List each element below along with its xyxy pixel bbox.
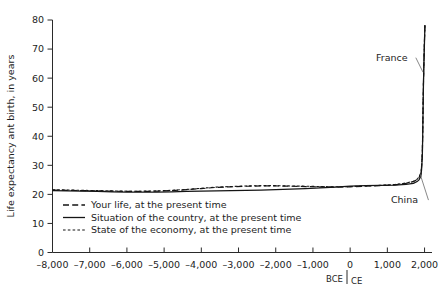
x-tick-label: –5,000 [148,259,180,270]
chart-legend: Your life, at the present timeSituation … [63,199,302,235]
y-axis-title: Life expectancy ant birth, in years [5,55,16,218]
y-tick-label: 80 [32,14,44,25]
x-tick-label: –8,000 [37,259,69,270]
annotation-leader-line [420,174,428,200]
line-chart: 01020304050607080 –8,000–7,000–6,000–5,0… [0,0,446,300]
annotation-layer: FranceChina [376,52,428,205]
y-tick-label: 70 [32,43,44,54]
x-tick-label: 0 [347,259,353,270]
legend-label-1: Situation of the country, at the present… [91,212,302,223]
x-tick-label: –7,000 [74,259,106,270]
y-tick-label: 10 [32,218,44,229]
series-line [53,24,425,191]
x-tick-label: –6,000 [111,259,143,270]
era-label-bce: BCE [326,274,343,284]
chart-figure: 01020304050607080 –8,000–7,000–6,000–5,0… [0,0,446,300]
legend-label-2: State of the economy, at the present tim… [91,224,292,235]
series-line [53,26,425,192]
x-tick-label: –1,000 [297,259,329,270]
y-tick-label: 60 [32,73,44,84]
y-tick-label: 20 [32,189,44,200]
x-tick-label: –2,000 [260,259,292,270]
x-tick-label: –3,000 [223,259,255,270]
y-axis-ticks: 01020304050607080 [32,14,53,258]
data-series-layer [53,23,425,192]
x-tick-label: 2,000 [411,259,438,270]
x-tick-label: –4,000 [185,259,217,270]
annotation-leader-line [416,58,423,73]
y-tick-label: 40 [32,131,44,142]
y-tick-label: 30 [32,160,44,171]
legend-label-0: Your life, at the present time [90,199,227,210]
x-axis-ticks: –8,000–7,000–6,000–5,000–4,000–3,000–2,0… [37,248,439,271]
series-line [53,23,425,191]
x-tick-label: 1,000 [374,259,401,270]
annotation-label-china: China [391,194,418,205]
era-label-ce: CE [351,276,362,286]
y-tick-label: 0 [38,247,44,258]
annotation-label-france: France [376,52,408,63]
y-tick-label: 50 [32,102,44,113]
